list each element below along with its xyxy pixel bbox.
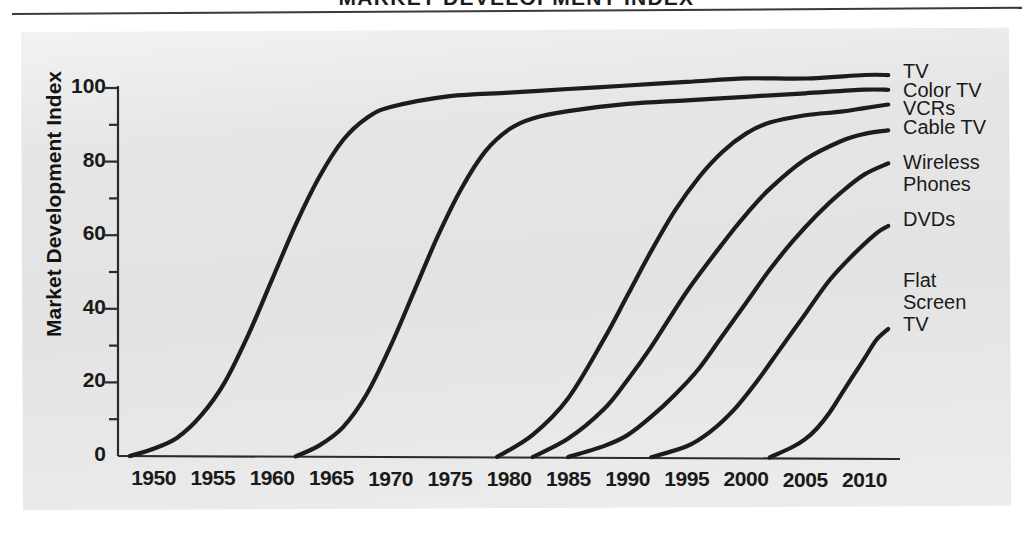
series-label: Screen: [903, 292, 966, 313]
series-label: Phones: [903, 174, 971, 195]
series-label: Wireless: [903, 152, 980, 173]
series-label: TV: [903, 314, 929, 335]
chart-panel: [21, 28, 1011, 510]
y-axis-title: Market Development Index: [42, 54, 66, 354]
series-label: DVDs: [903, 209, 955, 230]
series-label: Flat: [903, 270, 936, 291]
scan-sheen: [21, 28, 1011, 510]
series-label: Cable TV: [903, 117, 986, 138]
y-tick-label: 0: [40, 442, 106, 466]
x-tick-label: 2010: [828, 468, 900, 492]
chart-page: MARKET DEVELOPMENT INDEX 020406080100 19…: [0, 0, 1033, 540]
y-tick-label: 20: [40, 368, 106, 392]
